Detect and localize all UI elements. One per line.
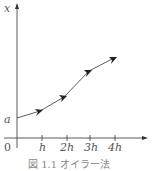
tick-label-2h: 2h: [60, 142, 74, 153]
figure-caption: 図 1.1 オイラー法: [28, 160, 110, 170]
x-axis-arrow-icon: [142, 136, 148, 140]
initial-value-label: a: [4, 114, 11, 125]
y-axis-arrow-icon: [15, 3, 19, 9]
origin-label: 0: [4, 142, 11, 153]
tick-label-4h: 4h: [108, 142, 122, 153]
y-axis-label: x: [4, 3, 10, 14]
tick-label-3h: 3h: [84, 142, 98, 153]
tick-label-h: h: [39, 142, 46, 153]
euler-polyline: [17, 58, 114, 118]
euler-diagram: [0, 0, 152, 171]
